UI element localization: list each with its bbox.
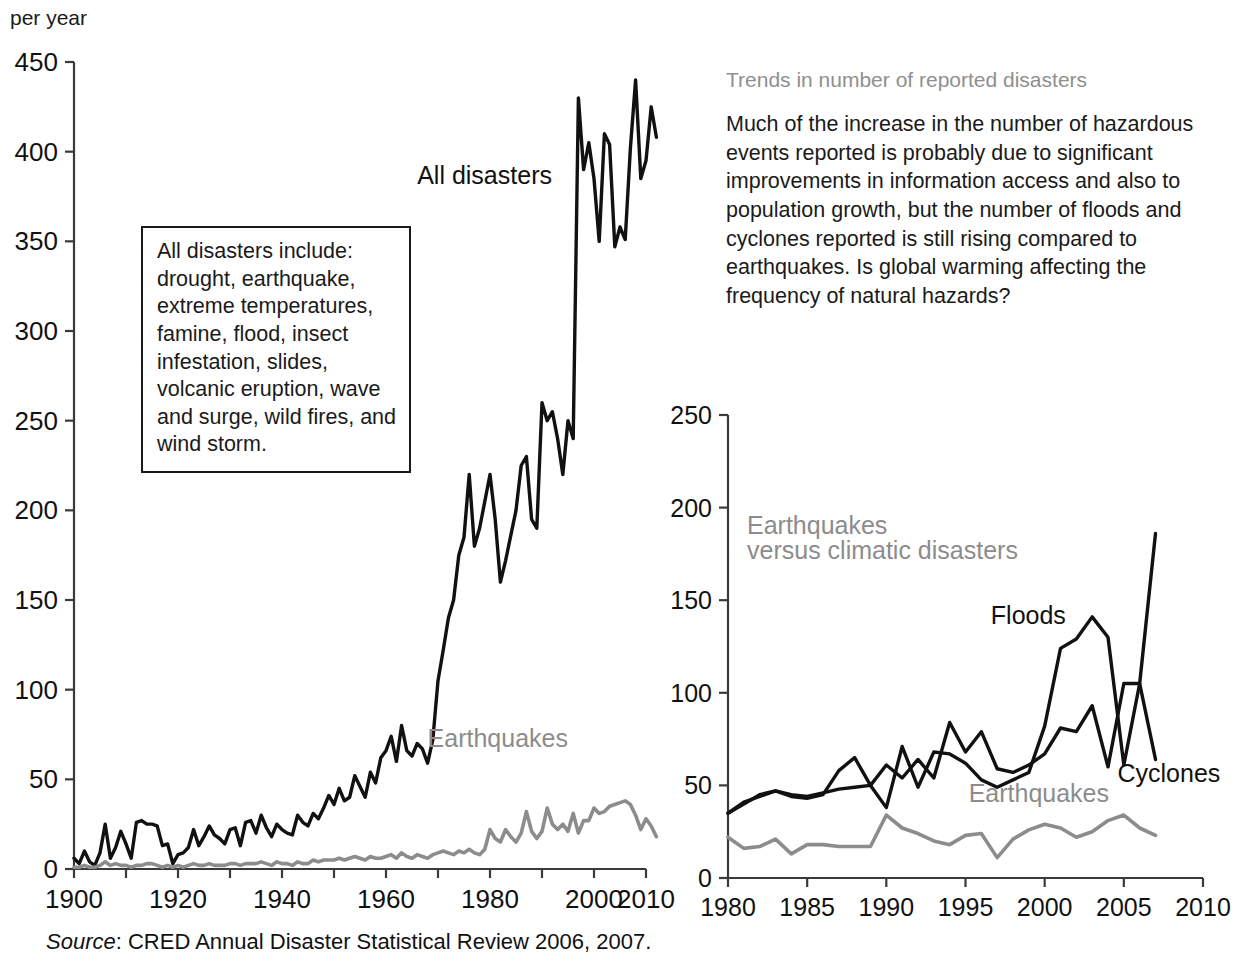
y-tick-label: 250 (15, 406, 58, 436)
x-tick-label: 1940 (253, 884, 311, 914)
x-tick-label: 1980 (461, 884, 519, 914)
right-chart-earthquakes-vs-climatic: 0501001502002501980198519901995200020052… (672, 390, 1237, 910)
x-tick-label: 2010 (617, 884, 675, 914)
series-line-earthquakes (728, 815, 1156, 858)
y-tick-label: 350 (15, 226, 58, 256)
y-tick-label: 150 (670, 586, 712, 614)
y-tick-label: 100 (670, 679, 712, 707)
y-tick-label: 150 (15, 585, 58, 615)
y-axis-unit-label: per year (10, 6, 87, 30)
y-tick-label: 250 (670, 401, 712, 429)
series-line-earthquakes (74, 801, 656, 867)
left-chart-all-disasters: 0501001502002503003504004501900192019401… (0, 34, 680, 914)
annotation-earthquakes: Earthquakes (747, 511, 887, 539)
x-tick-label: 1960 (357, 884, 415, 914)
y-tick-label: 300 (15, 316, 58, 346)
y-tick-label: 100 (15, 675, 58, 705)
y-tick-label: 0 (698, 864, 712, 892)
annotation-earthquakes: Earthquakes (969, 779, 1109, 807)
y-tick-label: 400 (15, 137, 58, 167)
x-tick-label: 2000 (565, 884, 623, 914)
annotation-versus-climatic-disasters: versus climatic disasters (747, 536, 1018, 564)
y-tick-label: 50 (684, 771, 712, 799)
annotation-earthquakes: Earthquakes (428, 724, 568, 752)
x-tick-label: 1980 (700, 893, 756, 921)
x-tick-label: 1920 (149, 884, 207, 914)
x-tick-label: 1990 (859, 893, 915, 921)
y-tick-label: 450 (15, 47, 58, 77)
sidebar-heading: Trends in number of reported disasters (726, 68, 1226, 92)
sidebar-body-text: Much of the increase in the number of ha… (726, 110, 1214, 311)
all-disasters-definition-box: All disasters include: drought, earthqua… (141, 226, 411, 473)
annotation-floods: Floods (991, 601, 1066, 629)
y-tick-label: 0 (44, 854, 58, 884)
x-tick-label: 1995 (938, 893, 994, 921)
annotation-all-disasters: All disasters (417, 161, 552, 189)
source-text: : CRED Annual Disaster Statistical Revie… (116, 929, 652, 954)
right-chart-svg: 0501001502002501980198519901995200020052… (672, 390, 1237, 910)
y-tick-label: 200 (15, 495, 58, 525)
x-tick-label: 1900 (45, 884, 103, 914)
x-tick-label: 2010 (1175, 893, 1231, 921)
annotation-cyclones: Cyclones (1118, 759, 1221, 787)
source-note: Source: CRED Annual Disaster Statistical… (46, 929, 651, 955)
y-tick-label: 200 (670, 494, 712, 522)
x-tick-label: 2000 (1017, 893, 1073, 921)
series-line-floods (728, 534, 1156, 814)
y-tick-label: 50 (29, 764, 58, 794)
x-tick-label: 1985 (779, 893, 835, 921)
x-tick-label: 2005 (1096, 893, 1152, 921)
left-chart-svg: 0501001502002503003504004501900192019401… (0, 34, 680, 914)
source-label: Source (46, 929, 116, 954)
